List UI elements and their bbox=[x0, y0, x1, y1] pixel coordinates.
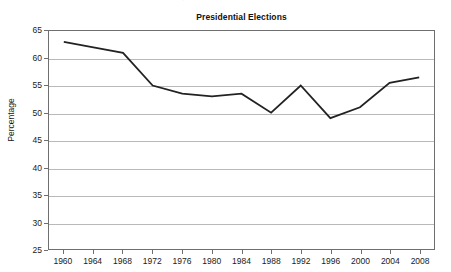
series-line-turnout bbox=[49, 31, 434, 249]
x-tick-mark bbox=[420, 250, 421, 254]
clipped-header-text: Voter Turnout in Presidential Elections,… bbox=[28, 0, 227, 1]
y-tick-mark bbox=[44, 250, 48, 251]
plot-area bbox=[48, 30, 435, 250]
x-tick-mark bbox=[122, 250, 123, 254]
y-tick-label: 60 bbox=[6, 53, 42, 63]
x-tick-mark bbox=[182, 250, 183, 254]
x-tick-mark bbox=[301, 250, 302, 254]
x-tick-label: 2008 bbox=[400, 256, 440, 266]
y-tick-label: 50 bbox=[6, 108, 42, 118]
x-tick-mark bbox=[271, 250, 272, 254]
y-tick-label: 25 bbox=[6, 245, 42, 255]
y-tick-label: 55 bbox=[6, 80, 42, 90]
y-tick-label: 40 bbox=[6, 163, 42, 173]
y-tick-label: 65 bbox=[6, 25, 42, 35]
y-tick-label: 35 bbox=[6, 190, 42, 200]
y-tick-label: 45 bbox=[6, 135, 42, 145]
x-tick-mark bbox=[390, 250, 391, 254]
clipped-header-strip: Voter Turnout in Presidential Elections,… bbox=[0, 0, 451, 7]
x-tick-mark bbox=[242, 250, 243, 254]
x-tick-mark bbox=[212, 250, 213, 254]
y-tick-label: 30 bbox=[6, 218, 42, 228]
x-tick-mark bbox=[361, 250, 362, 254]
chart-title: Presidential Elections bbox=[48, 12, 435, 22]
chart-figure: Voter Turnout in Presidential Elections,… bbox=[0, 0, 451, 272]
x-tick-mark bbox=[331, 250, 332, 254]
x-tick-mark bbox=[63, 250, 64, 254]
x-tick-mark bbox=[152, 250, 153, 254]
x-tick-mark bbox=[93, 250, 94, 254]
